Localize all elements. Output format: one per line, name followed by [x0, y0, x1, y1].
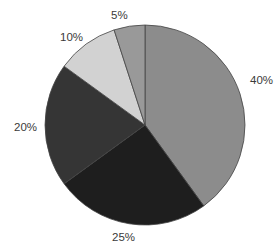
slice-label-5: 5%: [111, 9, 128, 21]
slice-label-20: 20%: [14, 121, 37, 133]
slice-label-10: 10%: [60, 31, 83, 43]
slice-label-25: 25%: [112, 231, 135, 243]
pie-slices: [45, 25, 245, 225]
slice-label-40: 40%: [250, 74, 273, 86]
pie-chart: 40% 25% 20% 10% 5%: [0, 0, 278, 246]
